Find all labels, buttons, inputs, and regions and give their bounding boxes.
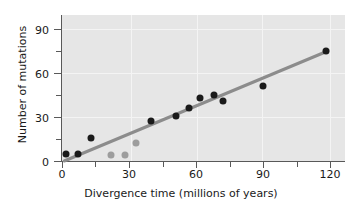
data-point-s1-2 — [132, 140, 139, 147]
regression-line — [64, 51, 328, 161]
data-point-s1-1 — [121, 152, 128, 159]
data-point-s0-1 — [74, 150, 81, 157]
data-point-s0-5 — [186, 105, 193, 112]
data-point-s0-3 — [148, 118, 155, 125]
data-point-s0-4 — [172, 112, 179, 119]
data-point-s0-7 — [210, 92, 217, 99]
chart-figure: 0 30 60 90 0 30 60 90 120 Divergence tim… — [0, 0, 362, 209]
data-point-s0-2 — [88, 134, 95, 141]
data-point-s0-10 — [322, 48, 329, 55]
data-point-s0-8 — [219, 97, 226, 104]
data-point-s0-9 — [260, 83, 267, 90]
data-point-s0-6 — [197, 94, 204, 101]
trendline-layer — [0, 0, 362, 209]
data-point-s1-0 — [108, 152, 115, 159]
data-point-s0-0 — [63, 150, 70, 157]
